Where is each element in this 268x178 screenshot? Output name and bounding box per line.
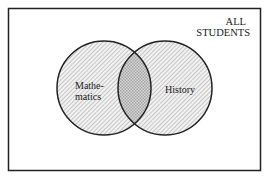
- history-label: History: [165, 84, 195, 95]
- mathematics-label-line1: Mathe-: [75, 80, 104, 91]
- venn-diagram: ALL STUDENTS Mathe- matics History: [0, 0, 268, 178]
- universe-label-line1: ALL: [226, 16, 246, 27]
- mathematics-label-line2: matics: [75, 91, 101, 102]
- universe-label-line2: STUDENTS: [196, 27, 250, 38]
